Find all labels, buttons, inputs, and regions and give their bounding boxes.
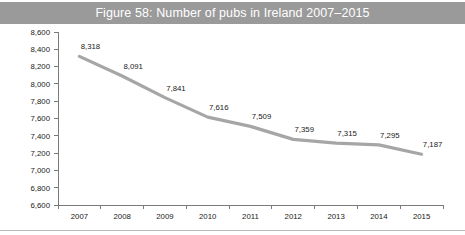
x-axis-ticks	[58, 205, 443, 209]
data-point-label: 7,295	[380, 131, 400, 140]
data-point-label: 7,509	[252, 112, 272, 121]
y-axis-tick-labels: 8,6008,4008,2008,0007,8007,6007,4007,200…	[30, 28, 50, 210]
y-tick-label: 8,400	[30, 45, 50, 54]
y-axis-group: 8,6008,4008,2008,0007,8007,6007,4007,200…	[30, 28, 58, 210]
data-point-label: 7,359	[295, 125, 315, 134]
data-point-label: 7,315	[337, 129, 357, 138]
line-chart: 8,6008,4008,2008,0007,8007,6007,4007,200…	[0, 24, 465, 224]
x-tick-label: 2014	[370, 212, 388, 221]
x-tick-label: 2011	[242, 212, 259, 221]
y-tick-label: 7,000	[30, 166, 50, 175]
pubs-count-series	[79, 56, 421, 154]
x-tick-label: 2010	[199, 212, 217, 221]
y-axis-ticks	[54, 32, 58, 205]
data-point-labels: 8,3188,0917,8417,6167,5097,3597,3157,295…	[81, 42, 443, 149]
x-axis-tick-labels: 200720082009201020112012201320142015	[71, 212, 431, 221]
x-tick-label: 2012	[285, 212, 302, 221]
y-tick-label: 6,600	[30, 201, 50, 210]
bottom-divider	[0, 230, 465, 231]
y-tick-label: 7,600	[30, 114, 50, 123]
figure-title-band: Figure 58: Number of pubs in Ireland 200…	[0, 2, 465, 24]
x-tick-label: 2009	[156, 212, 173, 221]
y-tick-label: 8,600	[30, 28, 50, 37]
x-tick-label: 2013	[327, 212, 344, 221]
x-tick-label: 2008	[113, 212, 130, 221]
y-tick-label: 6,800	[30, 184, 50, 193]
y-tick-label: 7,800	[30, 97, 50, 106]
y-tick-label: 8,200	[30, 62, 50, 71]
data-point-label: 7,616	[209, 103, 229, 112]
x-axis-group: 200720082009201020112012201320142015	[58, 205, 443, 221]
y-tick-label: 7,400	[30, 132, 50, 141]
figure-title: Figure 58: Number of pubs in Ireland 200…	[95, 6, 369, 20]
y-tick-label: 8,000	[30, 80, 50, 89]
data-point-label: 8,091	[123, 62, 143, 71]
data-point-label: 7,841	[166, 84, 186, 93]
x-tick-label: 2015	[413, 212, 431, 221]
figure-container: Figure 58: Number of pubs in Ireland 200…	[0, 0, 465, 235]
x-tick-label: 2007	[71, 212, 88, 221]
data-point-label: 7,187	[423, 140, 443, 149]
data-point-label: 8,318	[81, 42, 101, 51]
y-tick-label: 7,200	[30, 149, 50, 158]
